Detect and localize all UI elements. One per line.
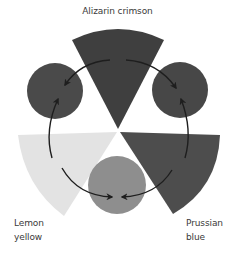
- label-prussian-blue-line2: blue: [186, 230, 223, 244]
- mix-circle-bottom: [88, 156, 146, 214]
- label-prussian-blue: Prussian blue: [186, 216, 223, 244]
- mix-circle-upper-left: [27, 63, 83, 119]
- mix-circle-upper-right: [152, 62, 208, 118]
- label-lemon-yellow-line1: Lemon: [14, 216, 44, 230]
- label-lemon-yellow-line2: yellow: [14, 230, 44, 244]
- alizarin-crimson-wedge: [72, 29, 164, 129]
- label-prussian-blue-line1: Prussian: [186, 216, 223, 230]
- label-alizarin-crimson: Alizarin crimson: [0, 4, 235, 18]
- label-lemon-yellow: Lemon yellow: [14, 216, 44, 244]
- label-alizarin-crimson-text: Alizarin crimson: [0, 4, 235, 18]
